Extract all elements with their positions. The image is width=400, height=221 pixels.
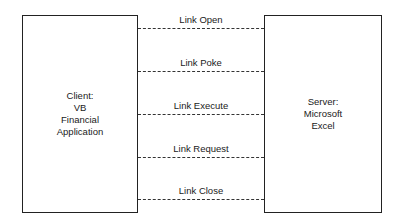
client-line-2: VB [57, 102, 103, 114]
client-line-1: Client: [57, 90, 103, 102]
message-label: Link Execute [138, 100, 264, 111]
client-label: Client: VB Financial Application [57, 90, 103, 138]
server-line-2: Microsoft [304, 108, 343, 120]
server-line-1: Server: [304, 96, 343, 108]
message-label: Link Open [138, 14, 264, 25]
client-line-3: Financial [57, 114, 103, 126]
message-label: Link Close [138, 185, 264, 196]
dashed-connector [138, 157, 264, 158]
server-label: Server: Microsoft Excel [304, 96, 343, 132]
client-line-4: Application [57, 126, 103, 138]
dashed-connector [138, 71, 264, 72]
message-label: Link Poke [138, 57, 264, 68]
dashed-connector [138, 114, 264, 115]
dashed-connector [138, 199, 264, 200]
server-line-3: Excel [304, 120, 343, 132]
server-box: Server: Microsoft Excel [264, 15, 382, 213]
dashed-connector [138, 28, 264, 29]
message-label: Link Request [138, 143, 264, 154]
client-box: Client: VB Financial Application [22, 15, 138, 213]
